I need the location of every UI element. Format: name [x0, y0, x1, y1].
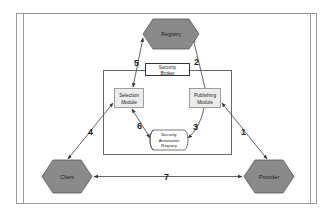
publishing-module-line-1: Publishing	[194, 93, 216, 98]
edge-label-1: 1	[241, 127, 246, 137]
publishing-module: Publishing Module	[190, 89, 221, 108]
selection-module-line-2: Module	[121, 100, 137, 105]
edge-label-7: 7	[164, 172, 169, 182]
sar-line-3: Registry	[161, 143, 178, 148]
edge-label-5: 5	[134, 58, 139, 68]
registry-label: Registry	[161, 31, 181, 37]
provider-node: Provider	[244, 160, 294, 193]
edge-label-2: 2	[194, 57, 199, 67]
edge-label-6: 6	[137, 121, 142, 131]
publishing-module-line-2: Module	[197, 100, 213, 105]
edge-label-3: 3	[193, 122, 198, 132]
sar-line-1: Security	[161, 132, 177, 137]
selection-module: Selection Module	[115, 89, 144, 108]
edge-label-4: 4	[88, 127, 93, 137]
security-annotation-registry: Security Annotation Registry	[150, 130, 188, 150]
client-label: Client	[60, 174, 75, 180]
security-broker-line-1: Security	[159, 65, 177, 70]
security-broker-line-2: Broker	[160, 71, 175, 76]
registry-node: Registry	[143, 19, 199, 49]
client-node: Client	[42, 160, 92, 193]
security-broker-label-box: Security Broker	[146, 64, 190, 76]
selection-module-line-1: Selection	[119, 93, 139, 98]
provider-label: Provider	[259, 174, 280, 180]
architecture-diagram: 5 2 4 1 6 3 7 Registry Client Provider S…	[0, 0, 334, 215]
sar-line-2: Annotation	[159, 138, 180, 143]
